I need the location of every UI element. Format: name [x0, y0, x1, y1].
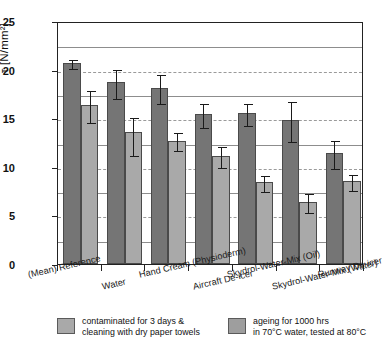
error-bar: [291, 102, 292, 143]
error-bar-cap-bottom: [69, 69, 78, 70]
error-bar: [160, 75, 161, 104]
error-bar-cap-top: [87, 91, 96, 92]
error-bar: [247, 104, 248, 127]
error-bar-cap-bottom: [288, 142, 297, 143]
error-bar: [352, 175, 353, 192]
error-bar: [72, 60, 73, 70]
error-bar: [203, 104, 204, 129]
error-bar: [334, 141, 335, 170]
bar-contaminated: [107, 82, 125, 264]
x-axis-tick-labels: (Mean) ReferenceWaterHand Cream (Physiod…: [0, 266, 379, 310]
error-bar-cap-bottom: [130, 156, 139, 157]
legend-label: ageing for 1000 hrsin 70°C water, tested…: [253, 316, 366, 337]
plot-area: [57, 22, 363, 265]
error-bar-cap-top: [157, 75, 166, 76]
legend-item: ageing for 1000 hrsin 70°C water, tested…: [228, 316, 366, 337]
bar-contaminated: [151, 88, 169, 264]
error-bar: [133, 118, 134, 157]
error-bar-cap-bottom: [218, 168, 227, 169]
error-bar-cap-top: [218, 147, 227, 148]
error-bar-cap-bottom: [87, 123, 96, 124]
bar-aged: [212, 156, 230, 264]
bar-contaminated: [238, 113, 256, 264]
error-bar-cap-top: [244, 104, 253, 105]
error-bar-cap-top: [349, 175, 358, 176]
error-bar: [264, 176, 265, 193]
error-bar-cap-top: [288, 102, 297, 103]
error-bar-cap-bottom: [200, 128, 209, 129]
bar-contaminated: [63, 63, 81, 264]
legend-item: contaminated for 3 days &cleaning with d…: [57, 316, 200, 337]
error-bar-cap-top: [174, 133, 183, 134]
error-bar: [90, 91, 91, 124]
error-bar-cap-top: [130, 118, 139, 119]
bar-aged: [81, 105, 99, 264]
error-bar: [308, 194, 309, 213]
error-bar-cap-top: [200, 104, 209, 105]
error-bar-cap-top: [261, 176, 270, 177]
y-axis-tick-label: 5: [0, 210, 15, 222]
bar-contaminated: [326, 153, 344, 264]
error-bar-cap-top: [331, 141, 340, 142]
error-bar-cap-top: [69, 60, 78, 61]
error-bar-cap-bottom: [261, 192, 270, 193]
legend-label: contaminated for 3 days &cleaning with d…: [82, 316, 200, 337]
y-axis-tick-label: 25: [0, 16, 15, 28]
error-bar-cap-bottom: [174, 151, 183, 152]
error-bar: [177, 133, 178, 152]
y-axis-tick-label: 10: [0, 162, 15, 174]
error-bar-cap-bottom: [305, 213, 314, 214]
bar-series-container: [58, 23, 362, 264]
chart-legend: contaminated for 3 days &cleaning with d…: [0, 312, 379, 350]
bar-aged: [343, 181, 361, 264]
bar-aged: [256, 182, 274, 264]
legend-swatch: [57, 318, 75, 334]
legend-swatch: [228, 318, 246, 334]
y-axis-tick-label: 15: [0, 113, 15, 125]
y-axis-tick-label: 20: [0, 65, 15, 77]
error-bar: [116, 70, 117, 100]
bar-aged: [168, 141, 186, 264]
error-bar-cap-bottom: [349, 191, 358, 192]
bar-contaminated: [195, 114, 213, 264]
error-bar-cap-bottom: [113, 99, 122, 100]
error-bar-cap-top: [113, 70, 122, 71]
error-bar-cap-bottom: [157, 104, 166, 105]
error-bar: [221, 147, 222, 168]
error-bar-cap-top: [305, 194, 314, 195]
error-bar-cap-bottom: [244, 126, 253, 127]
error-bar-cap-bottom: [331, 169, 340, 170]
x-axis-tick-label: Water: [101, 277, 127, 292]
